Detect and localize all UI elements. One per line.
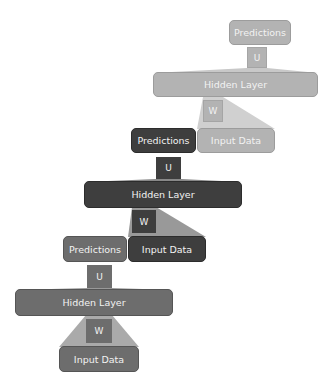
input-data-node-dark: Input Data xyxy=(128,236,206,262)
predictions-node-light: Predictions xyxy=(229,20,291,45)
input-data-node-medium: Input Data xyxy=(59,346,139,372)
w-weight-dark: W xyxy=(132,210,156,233)
u-weight-dark: U xyxy=(156,157,181,179)
u-weight-medium: U xyxy=(87,265,112,288)
predictions-node-medium: Predictions xyxy=(63,236,127,262)
input-data-node-light: Input Data xyxy=(197,128,275,153)
w-weight-light: W xyxy=(203,100,223,122)
hidden-layer-node-light: Hidden Layer xyxy=(153,72,318,97)
hidden-layer-node-medium: Hidden Layer xyxy=(15,289,173,316)
hidden-layer-node-dark: Hidden Layer xyxy=(84,181,242,208)
predictions-node-dark: Predictions xyxy=(131,128,196,153)
w-weight-medium: W xyxy=(86,319,112,343)
u-weight-light: U xyxy=(247,47,267,68)
